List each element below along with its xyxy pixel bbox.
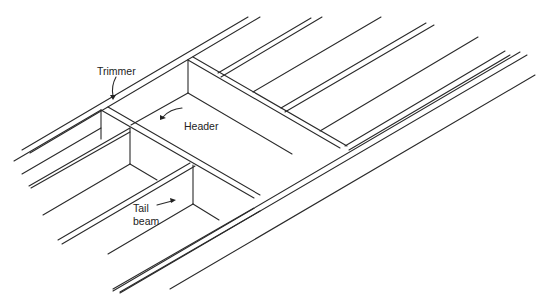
tail-beam-leader [157, 201, 172, 205]
trimmer-label: Trimmer [97, 65, 136, 77]
tail-beam-label-line2: beam [133, 215, 159, 227]
header-opening [101, 60, 292, 254]
tail-joists [14, 110, 260, 292]
header-leader [163, 108, 182, 117]
trimmer-leader [112, 77, 116, 96]
label-leaders [110, 77, 182, 205]
framing-drawing [0, 0, 551, 302]
tail-beam-arrowhead-icon [170, 198, 176, 203]
header-arrowhead-icon [160, 115, 166, 120]
header-label: Header [184, 120, 218, 132]
tail-beam-label-line1: Tail [133, 202, 149, 214]
floor-framing-diagram: Trimmer Header Tail beam [0, 0, 551, 302]
header-double [101, 57, 347, 198]
upper-joists [113, 17, 535, 293]
